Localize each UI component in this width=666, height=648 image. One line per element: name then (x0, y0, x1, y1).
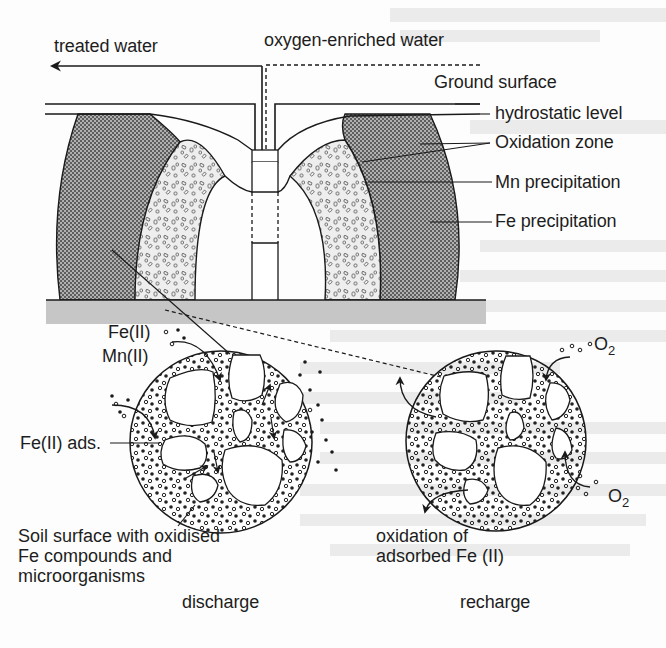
label-mn-precipitation: Mn precipitation (495, 172, 620, 192)
label-fe-ii-ads: Fe(II) ads. (20, 433, 101, 453)
label-oxidation-zone: Oxidation zone (495, 132, 614, 152)
caption-discharge: discharge (182, 592, 259, 612)
label-o2-bottom: O2 (608, 486, 629, 513)
label-treated-water: treated water (54, 36, 158, 56)
o2-bottom-symbol: O (608, 486, 622, 506)
label-oxidation-line2: adsorbed Fe (II) (376, 546, 504, 566)
label-hydrostatic-level: hydrostatic level (495, 103, 622, 123)
label-ground-surface: Ground surface (434, 72, 557, 92)
label-soil-surface-line2: Fe compounds and (18, 546, 220, 566)
label-mn-ii: Mn(II) (102, 346, 148, 366)
label-soil-surface-line3: microorganisms (18, 566, 220, 586)
label-fe-ii: Fe(II) (108, 322, 150, 342)
label-soil-surface-line1: Soil surface with oxidised (18, 526, 220, 546)
label-soil-surface: Soil surface with oxidised Fe compounds … (18, 526, 220, 586)
o2-top-subscript: 2 (608, 343, 615, 358)
label-oxidation-line1: oxidation of (376, 526, 504, 546)
caption-recharge: recharge (460, 592, 530, 612)
iron-manganese-removal-diagram: treated water oxygen-enriched water Grou… (0, 0, 666, 648)
label-oxidation-adsorbed: oxidation of adsorbed Fe (II) (376, 526, 504, 566)
label-oxygen-enriched-water: oxygen-enriched water (264, 30, 444, 50)
label-fe-precipitation: Fe precipitation (495, 211, 616, 231)
o2-top-symbol: O (594, 334, 608, 354)
o2-bottom-subscript: 2 (622, 495, 629, 510)
label-o2-top: O2 (594, 334, 615, 361)
